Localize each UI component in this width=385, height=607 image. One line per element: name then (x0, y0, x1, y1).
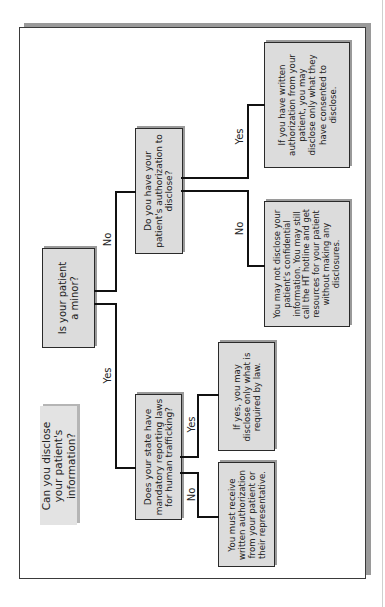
node-state-yes: If yes, you may disclose only what is re… (218, 342, 275, 451)
flowchart-title: Can you disclose your patient's informat… (40, 410, 77, 522)
node-state-no-text: You must receive written authorization f… (226, 466, 267, 564)
connector-minor-yes-to-state (115, 467, 136, 469)
connector-state-no-to-outcome (197, 516, 219, 518)
node-state-laws-text: Does your state have mandatory reporting… (143, 398, 175, 516)
label-state-no: No (186, 488, 197, 502)
node-state-no: You must receive written authorization f… (218, 462, 275, 567)
node-state-laws: Does your state have mandatory reporting… (135, 394, 182, 520)
node-written-auth-yes: If you have written authorization from y… (264, 42, 350, 168)
page-edge-line (382, 0, 383, 607)
node-no-auth-text: You may not disclose your patient's conf… (273, 207, 341, 321)
connector-minor-no-vertical (115, 191, 117, 292)
connector-minor-no-to-auth (115, 191, 136, 193)
label-state-yes: Yes (186, 416, 197, 432)
connector-auth-yes (181, 177, 249, 179)
label-minor-no: No (102, 233, 113, 247)
node-no-auth: You may not disclose your patient's conf… (264, 201, 350, 327)
label-auth-no: No (234, 222, 245, 236)
flowchart-title-box: Can you disclose your patient's informat… (40, 406, 77, 525)
node-authorization: Do you have your patient's authorization… (135, 128, 183, 254)
connector-minor-no (94, 290, 117, 292)
connector-auth-no (181, 190, 249, 192)
label-auth-yes: Yes (234, 128, 245, 144)
node-written-auth-yes-text: If you have written authorization from y… (277, 50, 338, 160)
node-authorization-text: Do you have your patient's authorization… (143, 132, 175, 250)
connector-auth-no-to-outcome (247, 265, 265, 267)
label-minor-yes: Yes (102, 367, 113, 383)
node-minor-text: Is your patient a minor? (57, 258, 81, 338)
connector-auth-no-vertical (247, 190, 249, 267)
connector-state-yes-to-outcome (197, 394, 219, 396)
node-minor: Is your patient a minor? (42, 248, 95, 348)
connector-auth-yes-to-outcome (247, 104, 265, 106)
connector-minor-yes (94, 303, 117, 305)
connector-state-yes-vertical (197, 394, 199, 458)
connector-auth-yes-vertical (247, 104, 249, 179)
connector-minor-yes-vertical (115, 303, 117, 469)
node-state-yes-text: If yes, you may disclose only what is re… (231, 351, 261, 443)
